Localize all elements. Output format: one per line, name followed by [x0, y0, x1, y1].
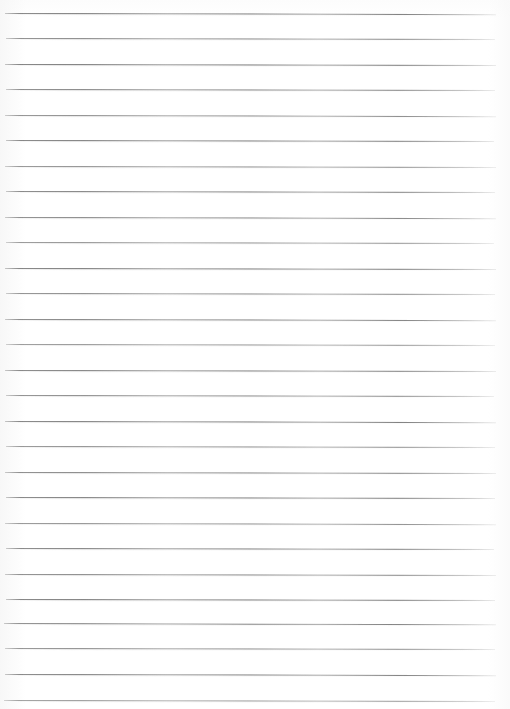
ruling-line — [6, 293, 495, 295]
ruling-line — [6, 344, 495, 346]
ruling-line-halo — [6, 498, 495, 500]
lined-paper-page — [0, 0, 510, 709]
ruling-line — [5, 319, 496, 321]
ruling-line — [5, 648, 495, 650]
ruling-line — [6, 89, 495, 91]
ruling-line — [5, 523, 496, 525]
ruling-line — [6, 599, 495, 601]
ruling-line — [5, 64, 496, 66]
ruling-line-halo — [5, 649, 495, 651]
ruling-line — [6, 140, 494, 142]
ruling-line — [5, 166, 496, 168]
ruling-line-halo — [6, 294, 495, 296]
ruling-line — [5, 115, 496, 117]
ruling-line-halo — [6, 192, 495, 194]
ruling-line-halo — [6, 600, 495, 602]
ruling-line-halo — [6, 447, 495, 449]
ruling-line-halo — [6, 141, 494, 143]
ruling-line — [6, 395, 494, 397]
ruling-line — [5, 370, 496, 372]
ruling-line — [5, 574, 496, 576]
ruling-line-halo — [6, 39, 495, 41]
ruling-line — [6, 497, 495, 499]
ruling-line-halo — [4, 701, 495, 703]
ruling-line-halo — [6, 90, 495, 92]
ruling-line — [6, 242, 494, 244]
paper-texture — [0, 0, 510, 709]
ruling-line — [4, 700, 495, 702]
ruling-line — [5, 674, 496, 676]
ruling-line — [5, 13, 496, 15]
ruling-line — [6, 38, 495, 40]
ruling-line-halo — [6, 396, 494, 398]
ruling-line-halo — [6, 345, 495, 347]
ruling-line — [6, 548, 494, 550]
ruling-line — [6, 191, 495, 193]
ruling-line — [5, 217, 496, 219]
ruling-line — [6, 446, 495, 448]
ruling-line — [5, 472, 496, 474]
ruling-line-halo — [6, 549, 494, 551]
ruling-line — [5, 421, 496, 423]
ruling-line-halo — [6, 243, 494, 245]
ruling-line — [5, 268, 496, 270]
ruling-line — [4, 623, 496, 625]
